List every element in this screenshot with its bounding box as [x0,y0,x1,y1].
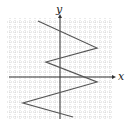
coordinate-graph: x y [0,0,128,132]
y-axis-label: y [55,3,63,16]
x-axis-arrow-icon [112,75,116,79]
x-axis-label: x [118,70,125,83]
